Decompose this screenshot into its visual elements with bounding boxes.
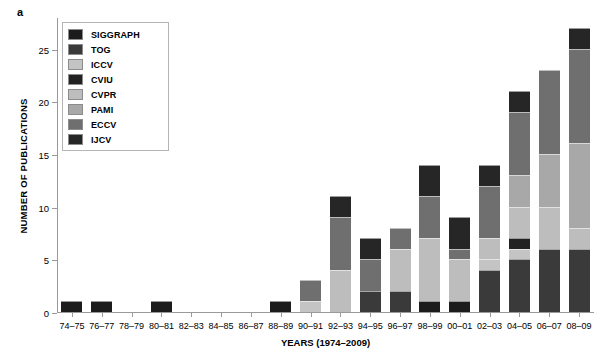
bar-stack[interactable]: [449, 217, 470, 312]
x-tick-label: 00–01: [447, 321, 472, 331]
x-tick: [132, 313, 133, 317]
bar-segment-eccv[interactable]: [330, 217, 351, 270]
legend-item-pami[interactable]: PAMI: [68, 102, 164, 117]
bar-stack[interactable]: [390, 228, 411, 312]
bar-segment-tog[interactable]: [509, 259, 530, 312]
bar-segment-cvpr[interactable]: [539, 207, 560, 249]
x-tick-label: 94–95: [358, 321, 383, 331]
legend-swatch-icon: [68, 59, 83, 70]
bar-segment-eccv[interactable]: [509, 112, 530, 175]
bar-segment-eccv[interactable]: [419, 196, 440, 238]
bar-segment-tog[interactable]: [479, 270, 500, 312]
legend-label: CVPR: [91, 90, 116, 100]
bar-segment-siggraph[interactable]: [91, 301, 112, 312]
legend-label: ECCV: [91, 120, 116, 130]
bar-segment-siggraph[interactable]: [61, 301, 82, 312]
legend-swatch-icon: [68, 134, 83, 145]
y-axis-line: [57, 18, 58, 313]
bar-segment-cvpr[interactable]: [509, 207, 530, 239]
bar-segment-siggraph[interactable]: [419, 301, 440, 312]
bar-segment-cvpr[interactable]: [479, 238, 500, 259]
legend-item-ijcv[interactable]: IJCV: [68, 132, 164, 147]
bar-segment-cvpr[interactable]: [330, 270, 351, 312]
bar-segment-cvpr[interactable]: [390, 249, 411, 291]
x-tick: [460, 313, 461, 317]
bar-segment-tog[interactable]: [539, 249, 560, 312]
y-tick-label: 15: [33, 149, 49, 160]
bar-segment-ijcv[interactable]: [569, 28, 590, 49]
bar-segment-tog[interactable]: [390, 291, 411, 312]
bar-segment-siggraph[interactable]: [151, 301, 172, 312]
legend-item-iccv[interactable]: ICCV: [68, 57, 164, 72]
x-tick-label: 92–93: [328, 321, 353, 331]
bar-segment-cvpr[interactable]: [449, 259, 470, 301]
legend-item-tog[interactable]: TOG: [68, 42, 164, 57]
x-tick-label: 86–87: [238, 321, 263, 331]
bar-stack[interactable]: [569, 28, 590, 312]
bar-segment-ijcv[interactable]: [330, 196, 351, 217]
bar-segment-cviu[interactable]: [509, 238, 530, 249]
bar-stack[interactable]: [360, 238, 381, 312]
legend-item-cviu[interactable]: CVIU: [68, 72, 164, 87]
bar-segment-ijcv[interactable]: [509, 91, 530, 112]
y-tick-label: 10: [33, 202, 49, 213]
legend-swatch-icon: [68, 89, 83, 100]
bar-segment-pami[interactable]: [539, 154, 560, 207]
bar-segment-pami[interactable]: [509, 175, 530, 207]
bar-segment-cvpr[interactable]: [419, 238, 440, 301]
bar-stack[interactable]: [270, 301, 291, 312]
legend-label: PAMI: [91, 105, 113, 115]
bar-segment-eccv[interactable]: [569, 49, 590, 144]
bar-stack[interactable]: [509, 91, 530, 312]
legend-item-eccv[interactable]: ECCV: [68, 117, 164, 132]
x-tick: [490, 313, 491, 317]
legend-swatch-icon: [68, 74, 83, 85]
bar-segment-ijcv[interactable]: [449, 217, 470, 249]
x-tick: [430, 313, 431, 317]
x-tick: [102, 313, 103, 317]
bar-segment-iccv[interactable]: [479, 259, 500, 270]
bar-segment-iccv[interactable]: [300, 301, 321, 312]
x-tick-label: 82–83: [179, 321, 204, 331]
y-tick: [52, 50, 57, 51]
legend-item-cvpr[interactable]: CVPR: [68, 87, 164, 102]
bar-stack[interactable]: [539, 70, 560, 312]
x-tick: [400, 313, 401, 317]
x-tick-label: 78–79: [119, 321, 144, 331]
panel-letter: a: [17, 6, 23, 18]
bar-segment-cvpr[interactable]: [569, 228, 590, 249]
x-tick-label: 02–03: [477, 321, 502, 331]
bar-stack[interactable]: [300, 280, 321, 312]
bar-segment-eccv[interactable]: [539, 70, 560, 154]
x-tick: [281, 313, 282, 317]
legend: SIGGRAPHTOGICCVCVIUCVPRPAMIECCVIJCV: [62, 22, 169, 151]
bar-stack[interactable]: [151, 301, 172, 312]
x-tick: [191, 313, 192, 317]
x-axis-line: [57, 312, 594, 313]
bar-stack[interactable]: [61, 301, 82, 312]
bar-segment-eccv[interactable]: [360, 259, 381, 291]
legend-label: CVIU: [91, 75, 113, 85]
x-tick: [311, 313, 312, 317]
legend-item-siggraph[interactable]: SIGGRAPH: [68, 27, 164, 42]
y-tick: [52, 208, 57, 209]
y-tick-label: 25: [33, 44, 49, 55]
bar-segment-ijcv[interactable]: [419, 165, 440, 197]
bar-segment-eccv[interactable]: [390, 228, 411, 249]
bar-segment-eccv[interactable]: [300, 280, 321, 301]
bar-segment-eccv[interactable]: [479, 186, 500, 239]
bar-segment-eccv[interactable]: [449, 249, 470, 260]
bar-stack[interactable]: [330, 196, 351, 312]
bar-segment-siggraph[interactable]: [270, 301, 291, 312]
bar-segment-pami[interactable]: [569, 143, 590, 227]
bar-segment-iccv[interactable]: [509, 249, 530, 260]
bar-stack[interactable]: [479, 165, 500, 313]
bar-segment-ijcv[interactable]: [360, 238, 381, 259]
bar-segment-siggraph[interactable]: [449, 301, 470, 312]
bar-stack[interactable]: [91, 301, 112, 312]
bar-segment-ijcv[interactable]: [479, 165, 500, 186]
x-tick-label: 98–99: [417, 321, 442, 331]
bar-segment-tog[interactable]: [360, 291, 381, 312]
bar-stack[interactable]: [419, 165, 440, 313]
bar-segment-tog[interactable]: [569, 249, 590, 312]
